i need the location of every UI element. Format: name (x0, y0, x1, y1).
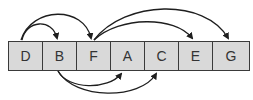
cell-e: E (179, 42, 213, 70)
arc-d-to-b (22, 24, 57, 40)
cell-a: A (111, 42, 145, 70)
cell-b: B (43, 42, 77, 70)
arc-f-to-e (94, 22, 192, 40)
array-diagram: D B F A C E G (0, 0, 253, 100)
cell-f: F (77, 42, 111, 70)
arc-b-to-a (58, 71, 121, 86)
cell-d: D (9, 42, 43, 70)
array-row: D B F A C E G (8, 41, 250, 71)
arc-f-to-g (94, 9, 228, 40)
cell-g: G (213, 42, 249, 70)
cell-c: C (145, 42, 179, 70)
